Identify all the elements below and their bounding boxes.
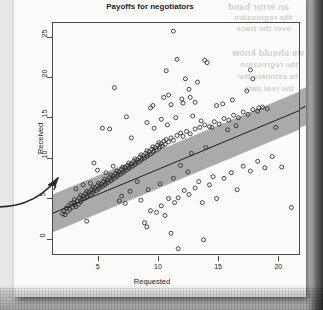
scatter-point [151, 104, 155, 108]
scatter-point [175, 57, 179, 61]
scatter-point [203, 58, 207, 62]
scatter-point [167, 93, 171, 97]
scatter-point [169, 231, 173, 235]
scatter-point [248, 68, 252, 72]
scatter-point [199, 119, 203, 123]
scatter-point [193, 127, 197, 131]
scatter-plot-svg [53, 23, 300, 255]
scatter-point [169, 136, 173, 140]
chart-figure: Payoffs for negotiators Received Request… [14, 0, 306, 297]
scatter-point [197, 180, 201, 184]
scatter-point [155, 210, 159, 214]
scatter-point [212, 120, 216, 124]
scatter-point [176, 196, 180, 200]
scatter-point [280, 165, 284, 169]
scatter-point [85, 219, 89, 223]
scatter-point [143, 221, 147, 225]
scatter-point [235, 188, 239, 192]
scatter-point [108, 127, 112, 131]
scatter-point [173, 201, 177, 205]
scatter-point [221, 102, 225, 106]
scatter-point [164, 69, 168, 73]
scatter-point [181, 134, 185, 138]
y-tick-label: 5 [39, 193, 46, 197]
scatter-point [196, 80, 200, 84]
scatter-point [159, 117, 163, 121]
scatter-point [198, 125, 202, 129]
scatter-point [129, 136, 133, 140]
scatter-point [208, 183, 212, 187]
scatter-point [152, 126, 156, 130]
scatter-point [187, 193, 191, 197]
x-tick-mark [218, 256, 219, 261]
scatter-point [174, 116, 178, 120]
scanned-page-canvas: an error bandthe regressionover the trac… [0, 0, 323, 310]
y-tick-label: 0 [39, 233, 46, 237]
scatter-point [176, 247, 180, 251]
scatter-point [188, 95, 192, 99]
scatter-point [188, 132, 192, 136]
scatter-point [163, 214, 167, 218]
scatter-point [159, 204, 163, 208]
scatter-point [193, 186, 197, 190]
scatter-point [230, 98, 234, 102]
scatter-point [112, 86, 116, 90]
x-tick-label: 10 [154, 263, 162, 270]
scatter-point [215, 104, 219, 108]
scatter-point [180, 97, 184, 101]
x-tick-mark [98, 256, 99, 261]
page-bottom-speckle [0, 288, 323, 310]
scatter-point [251, 77, 255, 81]
scatter-point [200, 201, 204, 205]
scatter-point [181, 101, 185, 105]
scatter-point [111, 164, 115, 168]
scatter-point [171, 29, 175, 33]
scatter-point [203, 123, 207, 127]
chart-title: Payoffs for negotiators [14, 2, 286, 11]
scatter-point [187, 87, 191, 91]
scatter-point [191, 114, 195, 118]
plot-panel [52, 22, 300, 255]
scatter-point [167, 197, 171, 201]
scatter-point [289, 206, 293, 210]
scatter-point [222, 176, 226, 180]
scatter-point [229, 171, 233, 175]
x-tick-label: 20 [274, 263, 282, 270]
scatter-point [222, 117, 226, 121]
scatter-point [263, 166, 267, 170]
scatter-point [232, 113, 236, 117]
scatter-point [241, 164, 245, 168]
scatter-point [145, 225, 149, 229]
scatter-point [256, 159, 260, 163]
scatter-point [175, 134, 179, 138]
y-axis-label: Received [36, 123, 45, 154]
scatter-point [211, 175, 215, 179]
scatter-point [169, 103, 173, 107]
scatter-point [149, 209, 153, 213]
scatter-point [193, 100, 197, 104]
scatter-point [270, 155, 274, 159]
scatter-point [202, 238, 206, 242]
scatter-point [248, 169, 252, 173]
scatter-point [171, 138, 175, 142]
scatter-point [205, 61, 209, 65]
scatter-point [162, 95, 166, 99]
scatter-point [167, 140, 171, 144]
scatter-point [100, 126, 104, 130]
x-tick-mark [158, 256, 159, 261]
page-gutter-shadow [305, 0, 323, 310]
scatter-point [92, 161, 96, 165]
scatter-point [245, 89, 249, 93]
scatter-point [183, 77, 187, 81]
x-tick-label: 5 [96, 263, 100, 270]
scatter-point [215, 197, 219, 201]
scatter-point [149, 106, 153, 110]
scatter-point [145, 121, 149, 125]
x-tick-label: 15 [214, 263, 222, 270]
scatter-point [124, 115, 128, 119]
x-tick-mark [278, 256, 279, 261]
scatter-point [182, 189, 186, 193]
scatter-point [241, 110, 245, 114]
scatter-point [165, 123, 169, 127]
scatter-point [139, 198, 143, 202]
